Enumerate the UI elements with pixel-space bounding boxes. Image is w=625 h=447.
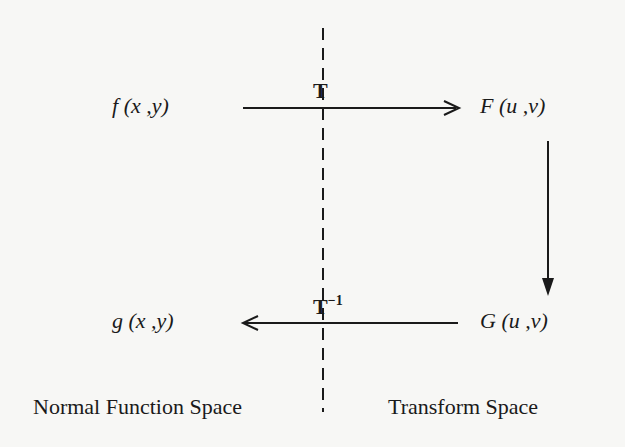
- node-F-uv: F (u ,v): [480, 93, 545, 119]
- node-G-uv: G (u ,v): [480, 308, 548, 334]
- node-g-args: (x ,y): [129, 308, 174, 333]
- node-f-func: f: [112, 93, 118, 118]
- node-g-func: g: [112, 308, 123, 333]
- node-F-func: F: [480, 93, 493, 118]
- inverse-transform-base: T: [313, 294, 328, 319]
- region-left-caption: Normal Function Space: [33, 394, 242, 420]
- node-g-xy: g (x ,y): [112, 308, 174, 334]
- forward-transform-arrow: [243, 101, 459, 115]
- node-G-args: (u ,v): [501, 308, 547, 333]
- diagram-lines: [0, 0, 625, 447]
- node-f-args: (x ,y): [124, 93, 169, 118]
- node-f-xy: f (x ,y): [112, 93, 169, 119]
- modify-arrow-down: [542, 141, 554, 296]
- inverse-transform-superscript: −1: [328, 293, 343, 308]
- region-right-caption: Transform Space: [388, 394, 538, 420]
- forward-transform-label: T: [313, 78, 328, 104]
- inverse-transform-label: T−1: [313, 293, 343, 320]
- node-F-args: (u ,v): [499, 93, 545, 118]
- node-G-func: G: [480, 308, 496, 333]
- inverse-transform-arrow: [243, 316, 458, 330]
